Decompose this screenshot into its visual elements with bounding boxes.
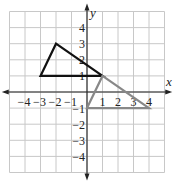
y-tick-label: 3: [79, 37, 85, 51]
y-tick-label: −4: [72, 150, 85, 164]
y-arrow-up-icon: [85, 3, 90, 10]
y-tick-label: −1: [72, 102, 85, 116]
x-tick-label: −3: [33, 95, 46, 109]
x-tick-label: −4: [18, 95, 31, 109]
coordinate-plane: −4−3−2−112344321−1−2−3−4 x y: [0, 0, 176, 186]
y-axis-label: y: [88, 5, 96, 20]
x-tick-label: 1: [100, 95, 106, 109]
x-tick-label: −2: [49, 95, 62, 109]
x-tick-label: 2: [115, 95, 121, 109]
x-axis-label: x: [165, 74, 172, 89]
axes: [2, 3, 173, 180]
y-tick-label: −2: [72, 118, 85, 132]
y-arrow-down-icon: [85, 174, 90, 181]
y-tick-label: −3: [72, 134, 85, 148]
y-tick-label: 4: [79, 21, 85, 35]
x-arrow-left-icon: [2, 90, 9, 95]
x-arrow-right-icon: [165, 90, 172, 95]
